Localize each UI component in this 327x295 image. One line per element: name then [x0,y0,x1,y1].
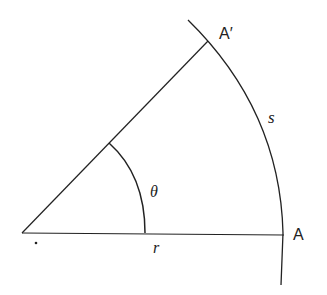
radius-line-oa [22,233,284,235]
origin-dot [35,242,38,245]
label-a: A [293,226,304,243]
outer-arc [188,20,283,285]
label-r: r [153,239,160,256]
radius-line-oa-prime [22,41,208,233]
label-s: s [268,108,275,127]
label-a-prime: A′ [219,25,233,42]
label-theta: θ [150,183,158,200]
angle-arc [109,143,145,233]
sector-diagram: A′ A s θ r [0,0,327,295]
